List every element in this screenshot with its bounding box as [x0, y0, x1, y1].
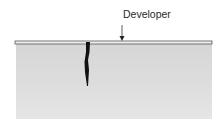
arrow-head-icon — [120, 36, 125, 41]
diagram-canvas — [0, 0, 224, 126]
developer-layer — [15, 41, 212, 44]
specimen-block — [16, 44, 212, 119]
